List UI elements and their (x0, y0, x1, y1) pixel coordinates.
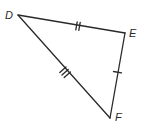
side-ef (110, 33, 125, 118)
tick-marks-de (76, 22, 80, 31)
side-df (18, 15, 110, 118)
triangle-svg (0, 0, 143, 127)
side-de (18, 15, 125, 33)
vertex-label-d: D (5, 10, 13, 21)
vertex-label-e: E (129, 28, 136, 39)
triangle-diagram: D E F (0, 0, 143, 127)
tick-marks-ef (114, 72, 122, 73)
vertex-label-f: F (115, 112, 122, 123)
